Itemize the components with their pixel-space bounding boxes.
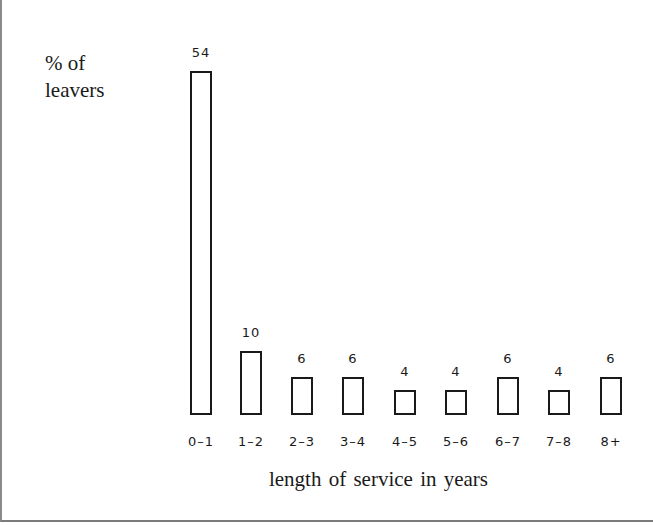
bar-value-label: 10 xyxy=(221,325,281,340)
bar-value-label: 6 xyxy=(323,351,383,366)
bar xyxy=(600,377,622,415)
x-tick-label: 5–6 xyxy=(426,434,486,449)
x-axis-label: length of service in years xyxy=(2,467,653,492)
bar xyxy=(445,390,467,415)
bar xyxy=(291,377,313,415)
bar-value-label: 6 xyxy=(581,351,641,366)
x-tick-label: 8+ xyxy=(581,434,641,449)
y-axis-label-line-1: % of xyxy=(45,50,104,77)
bar xyxy=(190,71,212,415)
x-tick-label: 7–8 xyxy=(529,434,589,449)
chart-frame: % of leavers 540–1101–262–363–444–545–66… xyxy=(0,0,653,522)
bar-value-label: 54 xyxy=(171,45,231,60)
bar-value-label: 4 xyxy=(529,364,589,379)
bar xyxy=(548,390,570,415)
y-axis-label-line-2: leavers xyxy=(45,77,104,104)
bar xyxy=(394,390,416,415)
y-axis-label: % of leavers xyxy=(45,50,104,104)
bar xyxy=(240,351,262,415)
x-tick-label: 3–4 xyxy=(323,434,383,449)
bar-value-label: 4 xyxy=(426,364,486,379)
bar xyxy=(497,377,519,415)
bar xyxy=(342,377,364,415)
